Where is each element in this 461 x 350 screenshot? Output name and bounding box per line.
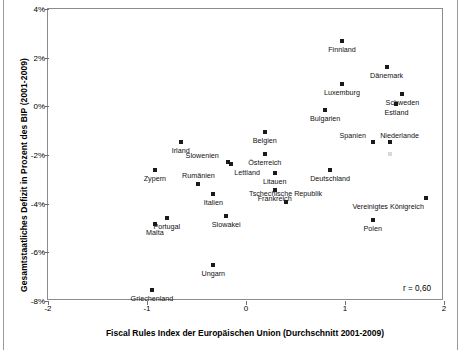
data-point-label: Deutschland [310,174,350,183]
y-tick-label: 2% [33,53,45,62]
y-tick-mark [45,58,49,59]
data-point [328,168,332,172]
chart-page: Gesamtstaatliches Defizit in Prozent des… [0,0,461,350]
x-tick-label: 1 [343,304,347,313]
data-point [340,39,344,43]
data-point [263,130,267,134]
data-point-label: Slowenien [186,151,219,160]
y-tick-mark [45,204,49,205]
y-tick-label: 4% [33,5,45,14]
y-axis-title: Gesamtstaatliches Defizit in Prozent des… [16,0,32,350]
faint-artifact-marker [388,152,392,156]
y-tick-mark [45,155,49,156]
x-axis-title: Fiscal Rules Index der Europäischen Unio… [47,328,443,338]
data-point [394,102,398,106]
data-point-label: Österreich [248,158,281,167]
y-tick-label: -2% [31,151,45,160]
x-tick-label: -1 [143,304,150,313]
data-point-label: Vereinigtes Königreich [352,202,424,211]
data-point [284,200,288,204]
y-tick-label: -8% [31,297,45,306]
correlation-annotation: r = 0,60 [403,284,431,293]
data-point [211,263,215,267]
data-point [385,65,389,69]
data-point-label: Polen [364,224,382,233]
data-point-label: Zypern [144,174,166,183]
data-point-label: Rumänien [182,171,215,180]
data-point [165,216,169,220]
data-point [153,168,157,172]
y-tick-mark [45,252,49,253]
x-tick-label: -2 [44,304,51,313]
data-point [229,162,233,166]
data-point-label: Slowakei [212,220,241,229]
y-tick-mark [45,9,49,10]
data-point [388,140,392,144]
data-point-label: Italien [204,198,223,207]
data-point-label: Tschechische Republik [249,189,322,198]
data-point-label: Litauen [263,177,287,186]
y-tick-label: -4% [31,199,45,208]
data-point-label: Lettland [234,168,260,177]
data-point-label: Dänemark [370,71,403,80]
data-point-label: Bulgarien [310,114,340,123]
data-point [150,288,154,292]
data-point [273,171,277,175]
data-point [371,218,375,222]
data-point-label: Schweden [386,98,420,107]
data-point [340,82,344,86]
data-point-label: Estland [384,108,408,117]
data-point-label: Niederlande [380,131,419,140]
data-point [179,140,183,144]
data-point-label: Griechenland [131,294,174,303]
data-point [224,214,228,218]
data-point [196,182,200,186]
data-point [371,140,375,144]
data-point [323,108,327,112]
data-point [400,92,404,96]
data-point-label: Spanien [340,131,366,140]
data-point-label: Ungarn [202,269,226,278]
data-point-label: Luxemburg [324,88,360,97]
data-point [211,192,215,196]
data-point [424,196,428,200]
y-tick-mark [45,106,49,107]
plot-area: 4%2%0%-2%-4%-6%-8% -2-1012 FinnlandDänem… [47,8,443,300]
data-point [153,222,157,226]
y-tick-label: -6% [31,248,45,257]
data-point-label: Belgien [253,136,277,145]
data-point-label: Finnland [328,45,356,54]
x-tick-label: 2 [442,304,446,313]
y-tick-label: 0% [33,102,45,111]
x-tick-label: 0 [244,304,248,313]
data-point-label: Malta [146,228,164,237]
data-point [263,152,267,156]
